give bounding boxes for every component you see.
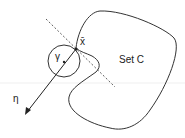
diagram-canvas bbox=[0, 0, 185, 138]
circle-center-point bbox=[63, 61, 65, 63]
gamma-label: γ bbox=[55, 52, 60, 62]
x-bar-point bbox=[74, 47, 77, 50]
eta-label: η bbox=[13, 94, 19, 104]
set-c-boundary bbox=[69, 11, 177, 129]
x-bar-label: x̄ bbox=[80, 37, 85, 47]
set-c-label: Set C bbox=[119, 55, 144, 65]
